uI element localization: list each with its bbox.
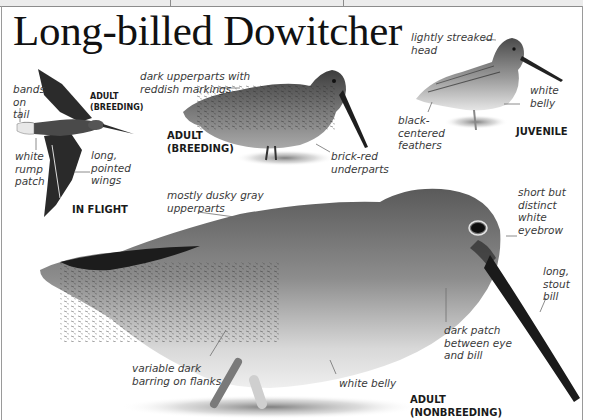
annotation-white-belly-juvenile: white belly <box>530 84 559 109</box>
annotation-dusky-gray-upperparts: mostly dusky gray upperparts <box>167 189 264 214</box>
annotation-lightly-streaked-head: lightly streaked head <box>411 31 493 56</box>
label-in-flight: IN FLIGHT <box>72 204 128 217</box>
annotation-black-centered-feathers: black- centered feathers <box>398 114 445 152</box>
annotation-white-belly-adult: white belly <box>339 377 396 390</box>
label-juvenile: JUVENILE <box>516 126 568 139</box>
annotation-brick-red-underparts: brick-red underparts <box>331 150 389 175</box>
label-adult-nonbreeding: ADULT (NONBREEDING) <box>410 394 502 419</box>
annotation-barring-on-flanks: variable dark barring on flanks <box>132 362 221 387</box>
annotation-long-stout-bill: long, stout bill <box>543 265 570 303</box>
label-in-flight-adult-breeding: ADULT (BREEDING) <box>90 92 143 113</box>
annotation-white-rump-patch: white rump patch <box>15 150 45 188</box>
annotation-dark-upperparts: dark upperparts with reddish markings <box>140 70 250 95</box>
label-adult-breeding: ADULT (BREEDING) <box>167 130 234 155</box>
field-guide-page: Long-billed Dowitcher <box>0 0 591 420</box>
annotation-white-eyebrow: short but distinct white eyebrow <box>518 186 566 236</box>
annotation-dark-patch: dark patch between eye and bill <box>444 324 512 362</box>
adult-nonbreeding-bird <box>40 189 580 419</box>
annotation-long-pointed-wings: long, pointed wings <box>91 149 131 187</box>
annotation-bands-on-tail: bands on tail <box>13 83 45 121</box>
